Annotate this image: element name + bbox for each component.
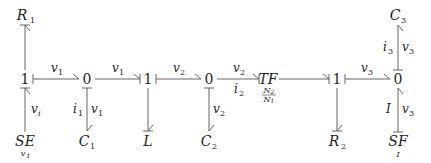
- transformer-ratio: N2 N1: [262, 86, 276, 104]
- element-sf: SF I: [388, 133, 409, 159]
- svg-text:3: 3: [368, 68, 373, 77]
- svg-text:1: 1: [78, 109, 83, 118]
- label-v1-c: v1: [91, 102, 103, 118]
- svg-text:i: i: [234, 82, 238, 96]
- svg-text:v: v: [173, 61, 180, 75]
- svg-text:v: v: [233, 61, 240, 75]
- svg-text:I: I: [395, 150, 400, 159]
- junction-0-a: 0: [83, 71, 92, 87]
- svg-text:SE: SE: [15, 133, 35, 149]
- bond-1a-0a: [33, 74, 79, 84]
- label-i2: i2: [234, 82, 244, 98]
- svg-text:v: v: [51, 61, 58, 75]
- svg-text:v: v: [21, 149, 26, 158]
- bond-1a-r1: [20, 25, 30, 70]
- svg-text:2: 2: [239, 89, 244, 98]
- svg-text:C: C: [201, 133, 212, 149]
- svg-text:i: i: [73, 102, 77, 116]
- label-i3: i3: [383, 40, 393, 56]
- bond-se-1a: [20, 88, 30, 132]
- svg-text:C: C: [79, 133, 90, 149]
- junction-1-c: 1: [333, 71, 342, 87]
- label-v3-c: v3: [402, 102, 414, 118]
- label-i1: i1: [73, 102, 83, 118]
- label-v2-b: v2: [233, 61, 245, 77]
- svg-text:L: L: [142, 133, 152, 149]
- label-vi: vi: [31, 102, 41, 118]
- svg-text:v: v: [112, 61, 119, 75]
- label-v3-a: v3: [361, 61, 373, 77]
- svg-text:2: 2: [240, 68, 245, 77]
- label-v1-a: v1: [51, 61, 63, 77]
- junction-0-c: 0: [394, 71, 403, 87]
- svg-text:i: i: [383, 40, 387, 54]
- svg-text:v: v: [402, 40, 409, 54]
- bond-1c-r2: [332, 88, 342, 131]
- element-r1: R 1: [16, 7, 35, 25]
- svg-text:1: 1: [58, 68, 63, 77]
- element-c1: C 1: [79, 133, 95, 151]
- svg-text:v: v: [402, 102, 409, 116]
- element-r2: R 2: [328, 133, 346, 151]
- junction-1-a: 1: [21, 71, 30, 87]
- transformer-tf: TF: [258, 71, 278, 87]
- bond-1b-0b: [156, 74, 201, 84]
- svg-text:2: 2: [220, 109, 225, 118]
- junction-1-b: 1: [144, 71, 153, 87]
- svg-text:v: v: [361, 61, 368, 75]
- svg-text:3: 3: [388, 47, 393, 56]
- svg-text:i: i: [27, 151, 30, 160]
- svg-text:SF: SF: [388, 133, 409, 149]
- bond-0a-1b: [95, 74, 140, 84]
- svg-text:N2: N2: [263, 86, 275, 95]
- bond-tf-1c: [279, 74, 329, 84]
- svg-text:1: 1: [90, 142, 95, 151]
- svg-text:2: 2: [212, 142, 217, 151]
- bond-graph-diagram: 1 0 1 0 TF N2 N1 1 0 R 1 SE v i C 1 L C …: [0, 0, 431, 163]
- svg-text:R: R: [16, 7, 28, 23]
- bond-1b-l: [143, 88, 153, 131]
- svg-text:3: 3: [409, 109, 414, 118]
- label-v1-b: v1: [112, 61, 124, 77]
- svg-text:N1: N1: [263, 95, 275, 104]
- svg-text:1: 1: [30, 16, 35, 25]
- label-I: I: [385, 102, 391, 116]
- svg-text:R: R: [328, 133, 340, 149]
- svg-text:2: 2: [341, 142, 346, 151]
- label-v3-b: v3: [402, 40, 414, 56]
- svg-text:2: 2: [180, 68, 185, 77]
- svg-text:C: C: [390, 7, 401, 23]
- element-se: SE v i: [15, 133, 35, 160]
- element-c2: C 2: [201, 133, 217, 151]
- svg-text:3: 3: [401, 16, 406, 25]
- element-c3: C 3: [390, 7, 406, 25]
- junction-0-b: 0: [205, 71, 214, 87]
- svg-text:1: 1: [98, 109, 103, 118]
- svg-text:v: v: [31, 102, 38, 116]
- svg-text:3: 3: [409, 47, 414, 56]
- svg-text:v: v: [91, 102, 98, 116]
- bond-0b-tf: [217, 74, 259, 84]
- label-v2-c: v2: [213, 102, 225, 118]
- svg-text:1: 1: [119, 68, 124, 77]
- element-l: L: [142, 133, 152, 149]
- svg-text:I: I: [385, 102, 391, 116]
- svg-text:v: v: [213, 102, 220, 116]
- svg-text:i: i: [38, 109, 41, 118]
- label-v2-a: v2: [173, 61, 185, 77]
